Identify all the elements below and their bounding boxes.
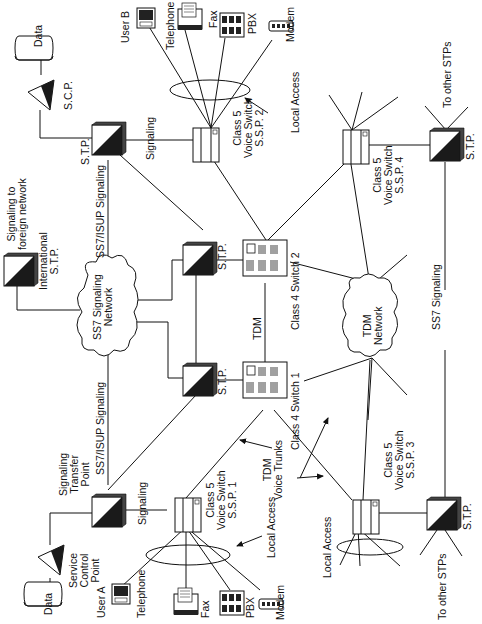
class4-switch2-label: Class 4 Switch 2 xyxy=(290,252,301,330)
pbx-a-label: PBX xyxy=(245,597,256,618)
stp-label-top: S.T.P. xyxy=(80,138,91,165)
tdm-voice-trunks-label: TDM Voice Trunks xyxy=(262,440,284,500)
international-stp-icon xyxy=(4,253,38,286)
data-label-top: Data xyxy=(33,25,44,47)
pbx-icon-b xyxy=(220,13,244,37)
user-a-label: User A xyxy=(96,586,107,618)
local-access-c-label: Local Access xyxy=(322,517,333,578)
ss7-network-label: SS7 Signaling Network xyxy=(92,274,114,340)
stp-icon-top xyxy=(92,122,126,155)
class4-switch1-icon xyxy=(243,362,287,398)
ssp2-switch-icon xyxy=(193,128,219,162)
scp-icon-bottom xyxy=(38,545,64,575)
stp-icon-bottom xyxy=(92,494,126,527)
class4-switch1-label: Class 4 Switch 1 xyxy=(290,372,301,450)
ssp4-label: Class 5 Voice Switch S.S.P. 4 xyxy=(372,145,405,205)
signaling-label-bottom: Signaling xyxy=(137,482,148,525)
to-other-stps-label-top: To other STPs xyxy=(442,41,453,108)
stp-label-right-bottom: S.T.P. xyxy=(462,503,473,530)
data-label-bottom: Data xyxy=(43,593,54,615)
ssp4-switch-icon xyxy=(343,130,369,164)
telephone-icon-a xyxy=(112,584,130,604)
tdm-network-label: TDM Network xyxy=(362,306,384,345)
ssp2-label: Class 5 Voice Switch S.S.P. 2 xyxy=(232,98,265,158)
to-other-stps-label-bottom: To other STPs xyxy=(437,553,448,620)
ss7-isup-label-top: SS7/ISUP Signaling xyxy=(95,165,106,258)
scp-icon-top xyxy=(28,80,54,110)
stp-icon-mid-top xyxy=(183,242,217,275)
ssp3-label: Class 5 Voice Switch S.S.P. 3 xyxy=(383,430,416,490)
ss7-signaling-label: SS7 Signaling xyxy=(431,264,442,330)
user-b-label: User B xyxy=(120,11,131,43)
modem-a-label: Modem xyxy=(275,585,286,620)
stp-label-mid-top: S.T.P. xyxy=(217,243,228,270)
stp-icon-right-top xyxy=(430,128,464,161)
stp-icon-right-bottom xyxy=(427,497,461,530)
stp-label-mid-bottom: S.T.P. xyxy=(217,368,228,395)
telephone-icon-b xyxy=(137,8,155,28)
modem-b-label: Modem xyxy=(285,7,296,42)
local-access-b-label: Local Access xyxy=(290,72,301,133)
stp-icon-mid-bottom xyxy=(183,363,217,396)
telephone-a-label: Telephone xyxy=(136,570,147,618)
ssp3-switch-icon xyxy=(353,500,379,534)
pbx-icon-a xyxy=(220,591,244,615)
signaling-foreign-label: Signaling to foreign network xyxy=(6,178,28,250)
fax-b-label: Fax xyxy=(208,10,219,28)
international-stp-label: International S.T.P. xyxy=(38,232,60,290)
scp-bottom-label: Service Control Point xyxy=(68,553,101,588)
ssp1-switch-icon xyxy=(175,498,201,532)
class4-switch2-icon xyxy=(243,240,287,276)
fax-icon-b xyxy=(178,3,202,30)
ss7-isup-label-bottom: SS7/ISUP Signaling xyxy=(95,382,106,475)
fax-icon-a xyxy=(174,588,198,615)
telephone-b-label: Telephone xyxy=(165,2,176,50)
local-access-a-label: Local Access xyxy=(266,497,277,558)
stp-bottom-label: Signaling Transfer Point xyxy=(58,453,91,496)
stp-label-right-top: S.T.P. xyxy=(465,133,476,160)
tdm-link-label: TDM xyxy=(252,317,263,340)
fax-a-label: Fax xyxy=(200,600,211,618)
scp-label-top: S.C.P. xyxy=(63,81,74,110)
pbx-b-label: PBX xyxy=(247,13,258,34)
signaling-label-top: Signaling xyxy=(145,117,156,160)
ssp1-label: Class 5 Voice Switch S.S.P. 1 xyxy=(205,470,238,530)
